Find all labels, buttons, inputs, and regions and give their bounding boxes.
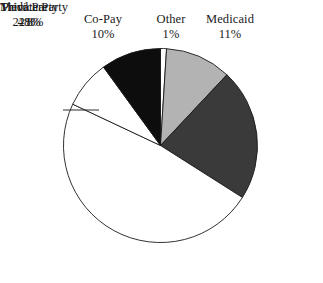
slice-label-medicaid: Medicaid 11% (193, 12, 267, 41)
slice-label-other-value: 1% (146, 27, 196, 42)
pie-slice-group (63, 49, 257, 243)
slice-label-other-name: Other (146, 12, 196, 27)
slice-label-third-party-name: Third Party (0, 0, 58, 15)
slice-label-third-party-value: 48% (0, 15, 58, 30)
pie-chart: Co-Pay 10% Other 1% Medicaid 11% Private… (0, 0, 323, 283)
slice-label-third-party: Third Party 48% (0, 0, 58, 29)
slice-label-co-pay: Co-Pay 10% (64, 12, 142, 41)
slice-label-co-pay-value: 10% (64, 27, 142, 42)
slice-label-other: Other 1% (146, 12, 196, 41)
slice-label-medicaid-name: Medicaid (193, 12, 267, 27)
slice-label-medicaid-value: 11% (193, 27, 267, 42)
slice-label-co-pay-name: Co-Pay (64, 12, 142, 27)
pie-chart-canvas (0, 0, 323, 283)
